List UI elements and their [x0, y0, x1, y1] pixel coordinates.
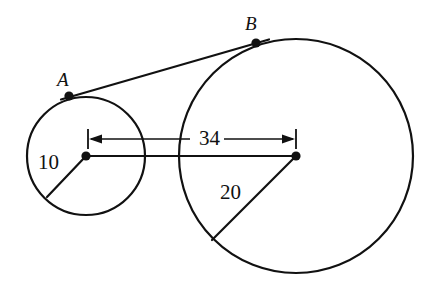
small-radius-label: 10 — [38, 152, 59, 173]
dimension-arrowhead-right — [282, 135, 295, 144]
tangent-line-segment — [61, 40, 269, 100]
large-radius-label: 20 — [220, 182, 241, 203]
point-b-label: B — [245, 14, 257, 33]
geometry-figure: A B 10 20 34 — [0, 0, 429, 285]
point-a-label: A — [57, 70, 69, 89]
center-distance-label: 34 — [195, 128, 224, 149]
dimension-arrowhead-left — [89, 135, 102, 144]
large-center-marker — [291, 151, 300, 160]
point-a-marker — [64, 91, 73, 100]
point-b-marker — [251, 38, 260, 47]
small-center-marker — [81, 151, 90, 160]
center-distance-dimension — [88, 129, 296, 149]
